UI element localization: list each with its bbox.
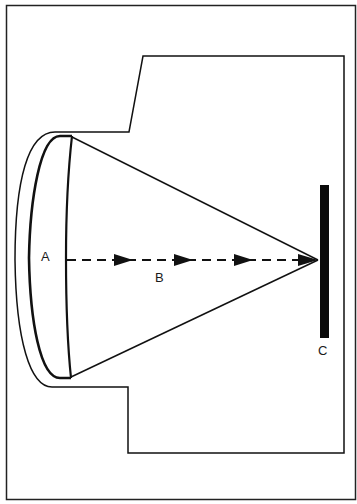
screen-surface bbox=[66, 136, 72, 378]
housing-outline bbox=[15, 56, 344, 453]
emitter-plate bbox=[320, 185, 329, 338]
crt-diagram: A B C bbox=[0, 0, 357, 504]
arrow-icon bbox=[174, 254, 193, 266]
beam-cone-bottom bbox=[71, 260, 318, 377]
label-b: B bbox=[155, 270, 164, 285]
label-a: A bbox=[41, 249, 50, 264]
beam-cone-top bbox=[72, 137, 318, 260]
arrow-icon bbox=[234, 254, 253, 266]
label-c: C bbox=[318, 343, 327, 358]
arrow-icon bbox=[114, 254, 133, 266]
